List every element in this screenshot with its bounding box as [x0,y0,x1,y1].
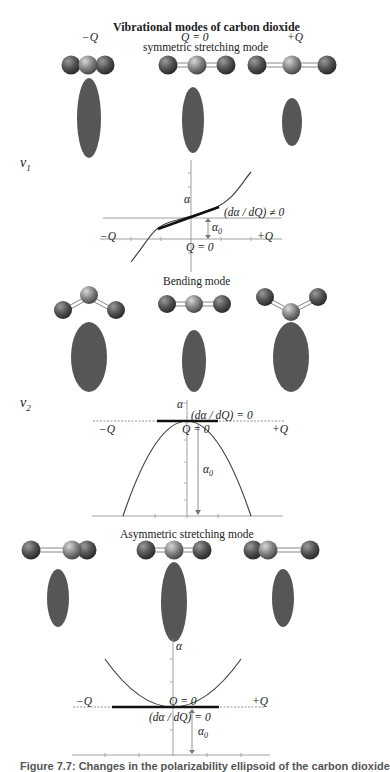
graph2-alpha0-label: α0 [203,463,213,478]
graph2-origin-label: Q = 0 [182,423,210,435]
figure-caption: Figure 7.7: Changes in the polarizabilit… [20,760,390,772]
molecule-asym-minus [22,541,97,560]
graph3-alpha0-label: α0 [198,725,208,740]
graph3-slope-label: (dα / dQ) = 0 [149,711,211,723]
ellipsoid-asym-minus [47,569,69,627]
molecule-asym-plus [244,541,320,560]
ellipsoid-bend-zero [182,330,206,392]
ellipsoid-bend-plus [273,322,309,392]
graph3-minus-q: −Q [76,695,92,707]
molecule-bend-plus [256,288,327,321]
graph3-plus-q: +Q [252,695,268,707]
ellipsoid-sym-zero [182,87,204,153]
graph1-plus-q: +Q [257,230,273,242]
graph-bending [92,400,284,518]
molecule-bend-zero [158,295,231,313]
mode-label-asymmetric: Asymmetric stretching mode [120,528,254,540]
nu2-symbol: ν2 [20,395,31,413]
graph2-alpha-label: α [177,398,183,410]
molecule-sym-plus [248,56,337,75]
graph1-slope-label: (dα / dQ) ≠ 0 [224,206,284,218]
ellipsoid-bend-minus [71,322,107,392]
ellipsoid-asym-plus [272,569,294,627]
graph2-plus-q: +Q [272,423,288,435]
ellipsoid-sym-plus [282,98,302,146]
molecule-sym-minus [62,56,115,75]
graph3-origin-label: Q = 0 [169,695,197,707]
graph1-alpha0-label: α0 [212,221,222,236]
graph1-alpha-label: α [184,193,190,205]
molecule-asym-zero [137,541,212,560]
molecule-sym-zero [159,56,236,75]
molecule-bend-minus [54,286,125,319]
mode-label-symmetric: symmetric stretching mode [143,41,268,53]
ellipsoid-sym-minus [77,78,101,158]
graph1-origin-label: Q = 0 [186,241,214,253]
graph2-slope-label: (dα / dQ) = 0 [191,409,253,421]
label-plus-q: +Q [287,31,303,43]
label-minus-q: −Q [82,31,98,43]
graph1-minus-q: −Q [100,230,116,242]
graph3-alpha-label: α [176,640,182,652]
nu1-symbol: ν1 [20,155,31,173]
graph2-minus-q: −Q [99,423,115,435]
ellipsoid-asym-zero [161,562,187,642]
mode-label-bending: Bending mode [163,275,230,287]
